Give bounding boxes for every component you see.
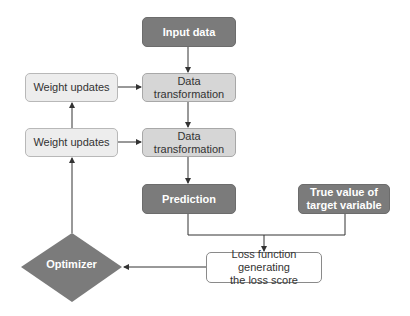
weight-updates-label-2: Weight updates <box>33 136 109 149</box>
weight-updates-label-1: Weight updates <box>33 81 109 94</box>
data-transformation-node-2: Data transformation <box>142 128 236 157</box>
data-transformation-label-1: Data transformation <box>143 75 235 101</box>
loss-function-node: Loss function generating the loss score <box>206 252 322 283</box>
weight-updates-node-2: Weight updates <box>25 128 118 157</box>
true-value-node: True value of target variable <box>298 184 390 214</box>
prediction-node: Prediction <box>142 184 236 214</box>
data-transformation-label-2: Data transformation <box>143 130 235 156</box>
optimizer-label: Optimizer <box>21 258 122 270</box>
loss-function-label-line1: Loss function generating <box>207 248 321 274</box>
input-data-label: Input data <box>163 26 216 39</box>
true-value-label: True value of target variable <box>305 186 383 212</box>
loss-function-label-line2: the loss score <box>230 274 298 287</box>
weight-updates-node-1: Weight updates <box>25 73 118 102</box>
prediction-label: Prediction <box>162 193 216 206</box>
data-transformation-node-1: Data transformation <box>142 73 236 102</box>
input-data-node: Input data <box>142 17 236 47</box>
